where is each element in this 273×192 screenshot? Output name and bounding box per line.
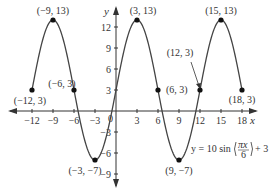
x-axis-left-arrow-icon <box>8 108 17 114</box>
x-ticks: −12−9−6−3369121518 <box>24 109 247 126</box>
x-axis-label: x <box>249 114 255 126</box>
x-tick-label: 6 <box>156 115 161 126</box>
x-tick-label: −12 <box>24 115 40 126</box>
point-label: (−6, 3) <box>48 78 75 90</box>
x-tick-label: 9 <box>177 115 182 126</box>
y-axis-label: y <box>103 5 109 17</box>
function-label: y = 10 sin πx 6 + 3 <box>191 139 268 160</box>
point-label: (−12, 3) <box>14 95 46 107</box>
x-tick-label: 15 <box>216 115 226 126</box>
point-marker <box>92 157 97 162</box>
point-label: (18, 3) <box>229 94 256 106</box>
point-label: (15, 13) <box>205 5 237 17</box>
label-leader-line <box>191 62 199 86</box>
point-label: (9, −7) <box>165 165 192 177</box>
point-marker <box>218 17 223 22</box>
x-tick-label: −9 <box>48 115 59 126</box>
point-label: (12, 3) <box>167 47 194 59</box>
svg-text:6: 6 <box>241 149 246 160</box>
point-marker <box>176 157 181 162</box>
y-ticks: 12963−3−6−9 <box>100 22 118 180</box>
y-tick-label: −3 <box>100 127 111 138</box>
point-marker <box>134 17 139 22</box>
svg-text:+ 3: + 3 <box>255 143 268 154</box>
x-tick-label: 3 <box>135 115 140 126</box>
x-tick-label: −3 <box>90 115 101 126</box>
x-tick-label: 12 <box>195 115 205 126</box>
x-tick-label: −6 <box>69 115 80 126</box>
y-tick-label: 12 <box>101 22 111 33</box>
point-label: (−3, −7) <box>69 165 102 177</box>
sine-graph: x y −12−9−6−3369121518 12963−3−6−9 0 (−1… <box>0 0 273 192</box>
y-tick-label: 3 <box>106 85 111 96</box>
y-axis-up-arrow-icon <box>113 6 119 15</box>
point-marker <box>239 87 244 92</box>
svg-text:y = 10 sin: y = 10 sin <box>191 143 231 154</box>
point-marker <box>50 17 55 22</box>
point-marker <box>29 87 34 92</box>
point-label: (−9, 13) <box>37 5 69 17</box>
point-label: (3, 13) <box>130 5 157 17</box>
sine-curve <box>32 20 242 160</box>
y-tick-label: −9 <box>100 169 111 180</box>
y-axis-down-arrow-icon <box>113 179 119 188</box>
y-tick-label: 9 <box>106 43 111 54</box>
x-tick-label: 18 <box>237 115 247 126</box>
point-marker <box>155 87 160 92</box>
point-label: (6, 3) <box>166 84 188 96</box>
y-tick-label: 6 <box>106 64 111 75</box>
